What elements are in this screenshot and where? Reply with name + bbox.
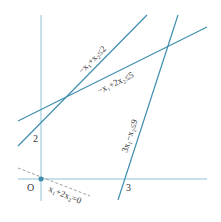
constraint-line-3 xyxy=(118,15,178,200)
lp-diagram: O 2 3 −x₁+x₂≤2 −x₁+2x₂≤5 3x₁−x₂≤9 x₁+2x₂… xyxy=(0,0,221,222)
constraint-label-2: −x₁+2x₂≤5 xyxy=(95,69,135,95)
diagram-svg: O 2 3 −x₁+x₂≤2 −x₁+2x₂≤5 3x₁−x₂≤9 x₁+2x₂… xyxy=(0,0,221,222)
constraint-line-2 xyxy=(18,27,207,121)
y-tick-label: 2 xyxy=(33,133,38,144)
origin-label: O xyxy=(27,182,34,193)
x-tick-label: 3 xyxy=(126,182,131,193)
origin-point xyxy=(39,177,44,182)
constraint-label-3: 3x₁−x₂≤9 xyxy=(119,117,139,153)
